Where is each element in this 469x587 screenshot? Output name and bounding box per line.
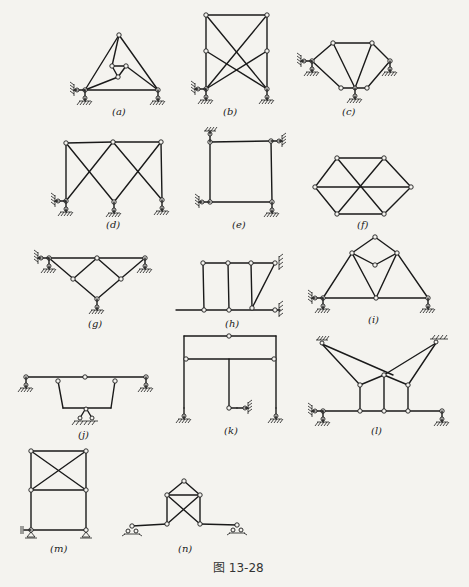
label-j: (j) bbox=[78, 429, 89, 440]
panel-b: (b) bbox=[191, 13, 274, 117]
label-l: (l) bbox=[371, 425, 382, 436]
panel-j: (j) bbox=[18, 375, 153, 440]
figure-caption: 图 13-28 bbox=[213, 561, 264, 575]
label-h: (h) bbox=[225, 318, 239, 329]
label-g: (g) bbox=[88, 318, 102, 329]
label-i: (i) bbox=[368, 314, 379, 325]
label-k: (k) bbox=[224, 425, 238, 436]
panel-f: (f) bbox=[313, 156, 413, 230]
label-b: (b) bbox=[223, 106, 237, 117]
structural-diagram-figure: (a) (b) bbox=[0, 0, 469, 587]
panel-k: (k) bbox=[176, 334, 283, 436]
label-m: (m) bbox=[50, 543, 67, 554]
label-a: (a) bbox=[112, 106, 126, 117]
label-d: (d) bbox=[106, 219, 120, 230]
panel-h: (h) bbox=[176, 254, 283, 329]
panel-n: (n) bbox=[122, 479, 247, 554]
label-n: (n) bbox=[178, 543, 192, 554]
panel-e: (e) bbox=[195, 127, 286, 230]
label-f: (f) bbox=[357, 219, 369, 230]
panel-d: (d) bbox=[51, 140, 169, 230]
panel-l: (l) bbox=[308, 335, 449, 436]
panel-i: (i) bbox=[308, 235, 435, 325]
label-c: (c) bbox=[342, 106, 356, 117]
panel-a: (a) bbox=[70, 33, 165, 117]
panel-m: (m) bbox=[21, 449, 92, 554]
panel-g: (g) bbox=[34, 250, 152, 329]
panel-c: (c) bbox=[297, 41, 397, 117]
label-e: (e) bbox=[232, 219, 246, 230]
